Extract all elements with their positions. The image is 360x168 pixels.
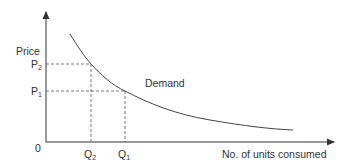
p1-label: P1 [31, 85, 42, 101]
p1-base: P [31, 85, 38, 97]
q1-label: Q1 [118, 148, 130, 164]
curve-label: Demand [145, 77, 185, 89]
y-axis-label: Price [16, 45, 40, 57]
q1-sub: 1 [126, 154, 130, 161]
q2-label: Q2 [84, 148, 96, 164]
origin-label: 0 [35, 142, 41, 154]
p2-base: P [31, 58, 38, 70]
q2-sub: 2 [92, 154, 96, 161]
p2-sub: 2 [38, 64, 42, 71]
p1-sub: 1 [38, 91, 42, 98]
q1-base: Q [118, 148, 126, 160]
x-axis-label: No. of units consumed [222, 148, 326, 160]
q2-base: Q [84, 148, 92, 160]
p2-label: P2 [31, 58, 42, 74]
